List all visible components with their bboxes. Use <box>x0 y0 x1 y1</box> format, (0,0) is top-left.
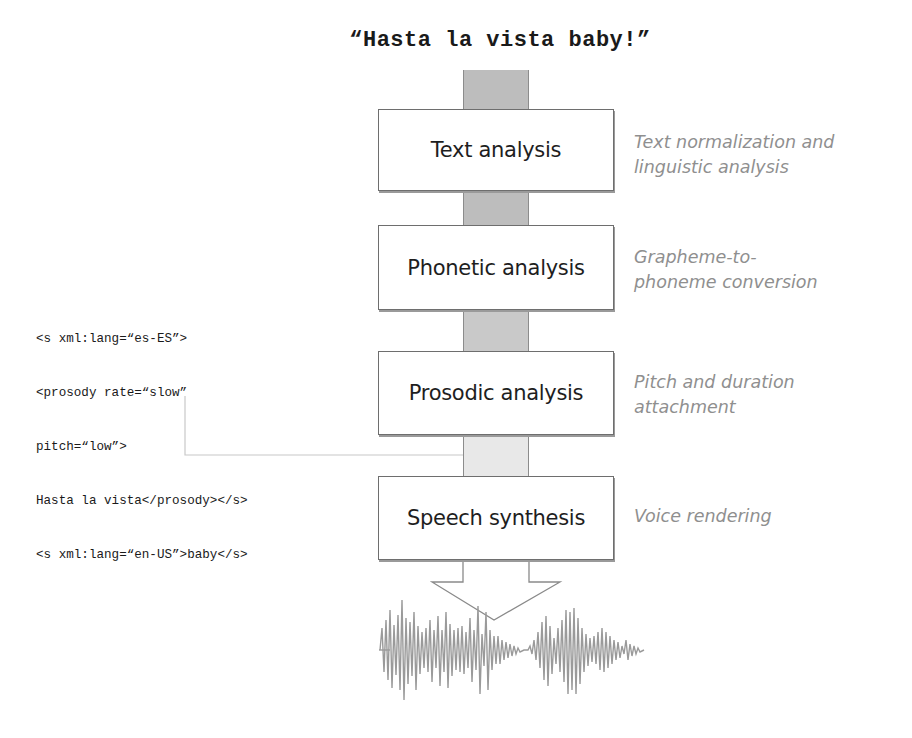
stage-box-speech-synthesis: Speech synthesis <box>378 476 614 560</box>
stage-description-prosodic-analysis: Pitch and duration attachment <box>634 370 904 420</box>
ssml-line: <prosody rate=“slow” <box>36 384 248 402</box>
ssml-line: <s xml:lang=“es-ES”> <box>36 330 248 348</box>
ssml-line: Hasta la vista</prosody></s> <box>36 492 248 510</box>
description-line: Grapheme-to- <box>634 245 904 270</box>
stage-description-text-analysis: Text normalization and linguistic analys… <box>634 130 904 180</box>
description-line: linguistic analysis <box>634 155 904 180</box>
stage-label: Text analysis <box>431 138 561 162</box>
stage-label: Speech synthesis <box>407 506 585 530</box>
description-line: Text normalization and <box>634 130 904 155</box>
ssml-line: pitch=“low”> <box>36 438 248 456</box>
stage-label: Phonetic analysis <box>407 256 584 280</box>
stage-box-text-analysis: Text analysis <box>378 109 614 191</box>
description-line: attachment <box>634 395 904 420</box>
stage-label: Prosodic analysis <box>409 381 583 405</box>
stage-description-speech-synthesis: Voice rendering <box>634 504 904 529</box>
description-line: Pitch and duration <box>634 370 904 395</box>
stage-box-prosodic-analysis: Prosodic analysis <box>378 351 614 435</box>
ssml-line: <s xml:lang=“en-US”>baby</s> <box>36 546 248 564</box>
stage-box-phonetic-analysis: Phonetic analysis <box>378 225 614 310</box>
waveform-icon <box>379 600 644 700</box>
stage-description-phonetic-analysis: Grapheme-to- phoneme conversion <box>634 245 904 295</box>
ssml-markup: <s xml:lang=“es-ES”> <prosody rate=“slow… <box>36 294 248 582</box>
output-arrow-icon <box>432 560 560 620</box>
description-line: Voice rendering <box>634 504 904 529</box>
description-line: phoneme conversion <box>634 270 904 295</box>
